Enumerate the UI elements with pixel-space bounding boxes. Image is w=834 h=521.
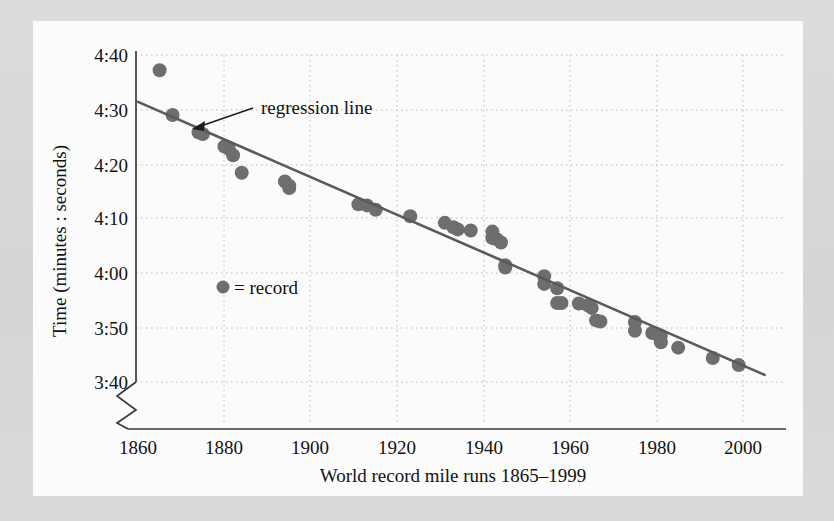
- y-tick-label: 4:40: [94, 45, 128, 66]
- legend-marker-icon: [217, 281, 230, 294]
- legend-label: = record: [234, 277, 298, 298]
- data-point: [153, 63, 167, 77]
- x-tick-label: 1920: [378, 437, 416, 458]
- scatter-chart: 4:40 4:30 4:20 4:10 4:00 3:50 3:40 1860 …: [33, 21, 803, 496]
- y-tick-label: 3:50: [94, 318, 128, 339]
- data-point: [451, 222, 465, 236]
- y-tick-labels: 4:40 4:30 4:20 4:10 4:00 3:50 3:40: [94, 45, 128, 393]
- chart-svg: 4:40 4:30 4:20 4:10 4:00 3:50 3:40 1860 …: [33, 21, 803, 496]
- x-tick-label: 1980: [638, 437, 676, 458]
- data-point: [226, 148, 240, 162]
- x-axis-title: World record mile runs 1865–1999: [320, 465, 587, 486]
- figure-panel: 4:40 4:30 4:20 4:10 4:00 3:50 3:40 1860 …: [33, 21, 803, 496]
- regression-line-annotation: regression line: [192, 97, 372, 131]
- x-tick-label: 1960: [551, 437, 589, 458]
- y-axis-title: Time (minutes : seconds): [49, 145, 71, 337]
- y-tick-label: 4:00: [94, 263, 128, 284]
- y-tick-label: 4:10: [94, 208, 128, 229]
- x-tick-labels: 1860 1880 1900 1920 1940 1960 1980 2000: [119, 437, 762, 458]
- y-tick-label: 4:30: [94, 100, 128, 121]
- y-tick-label: 3:40: [94, 372, 128, 393]
- data-point: [282, 181, 296, 195]
- data-point: [464, 223, 478, 237]
- axis-spines: [117, 51, 786, 429]
- regression-line: [138, 102, 765, 375]
- data-point: [671, 341, 685, 355]
- gridlines: [136, 55, 783, 425]
- x-tick-label: 1880: [205, 437, 243, 458]
- annotation-arrow-shaft: [198, 108, 253, 127]
- data-point: [555, 296, 569, 310]
- legend: = record: [217, 277, 299, 298]
- y-tick-label: 4:20: [94, 155, 128, 176]
- x-tick-label: 1940: [465, 437, 503, 458]
- data-point: [628, 324, 642, 338]
- data-point: [593, 315, 607, 329]
- data-point: [235, 166, 249, 180]
- data-point: [494, 235, 508, 249]
- annotation-label: regression line: [261, 97, 372, 118]
- x-tick-label: 1860: [119, 437, 157, 458]
- x-tick-label: 1900: [291, 437, 329, 458]
- x-tick-label: 2000: [724, 437, 762, 458]
- data-point: [654, 335, 668, 349]
